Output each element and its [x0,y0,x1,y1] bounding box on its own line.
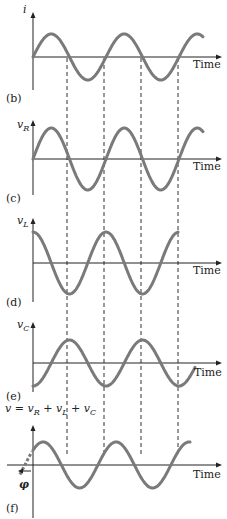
panel-label-f: (f) [6,502,19,515]
phase-angle-phi-label: φ [19,478,29,491]
y-axis-label-v-sum: v = vR + vL + vC [5,402,96,417]
panel-label-c: (c) [6,192,21,205]
y-axis-label-i: i [23,3,27,16]
x-axis-label-time-e: Time [194,366,222,379]
waveforms [20,34,203,488]
rlc-waveform-diagram [0,0,227,519]
y-axis-label-vL: vL [17,214,29,229]
x-axis-label-time-d: Time [193,264,221,277]
x-axis-label-time-b: Time [193,58,221,71]
x-axis-label-time-f: Time [193,468,221,481]
y-axis-label-vC: vC [17,318,29,333]
x-axis-label-time-c: Time [193,160,221,173]
panel-label-b: (b) [6,92,22,105]
panel-label-d: (d) [6,296,22,309]
y-axis-label-vR: vR [17,118,29,133]
